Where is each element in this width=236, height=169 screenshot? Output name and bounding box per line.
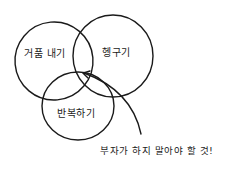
annotation-text: 부자가 하지 말아야 할 것! [100, 143, 213, 157]
set-label-left: 거품 내기 [24, 45, 66, 60]
left-circle [12, 19, 97, 104]
set-label-bottom: 반복하기 [57, 105, 95, 120]
set-label-right: 헹구기 [102, 44, 131, 59]
annotation-arrow [84, 73, 141, 134]
